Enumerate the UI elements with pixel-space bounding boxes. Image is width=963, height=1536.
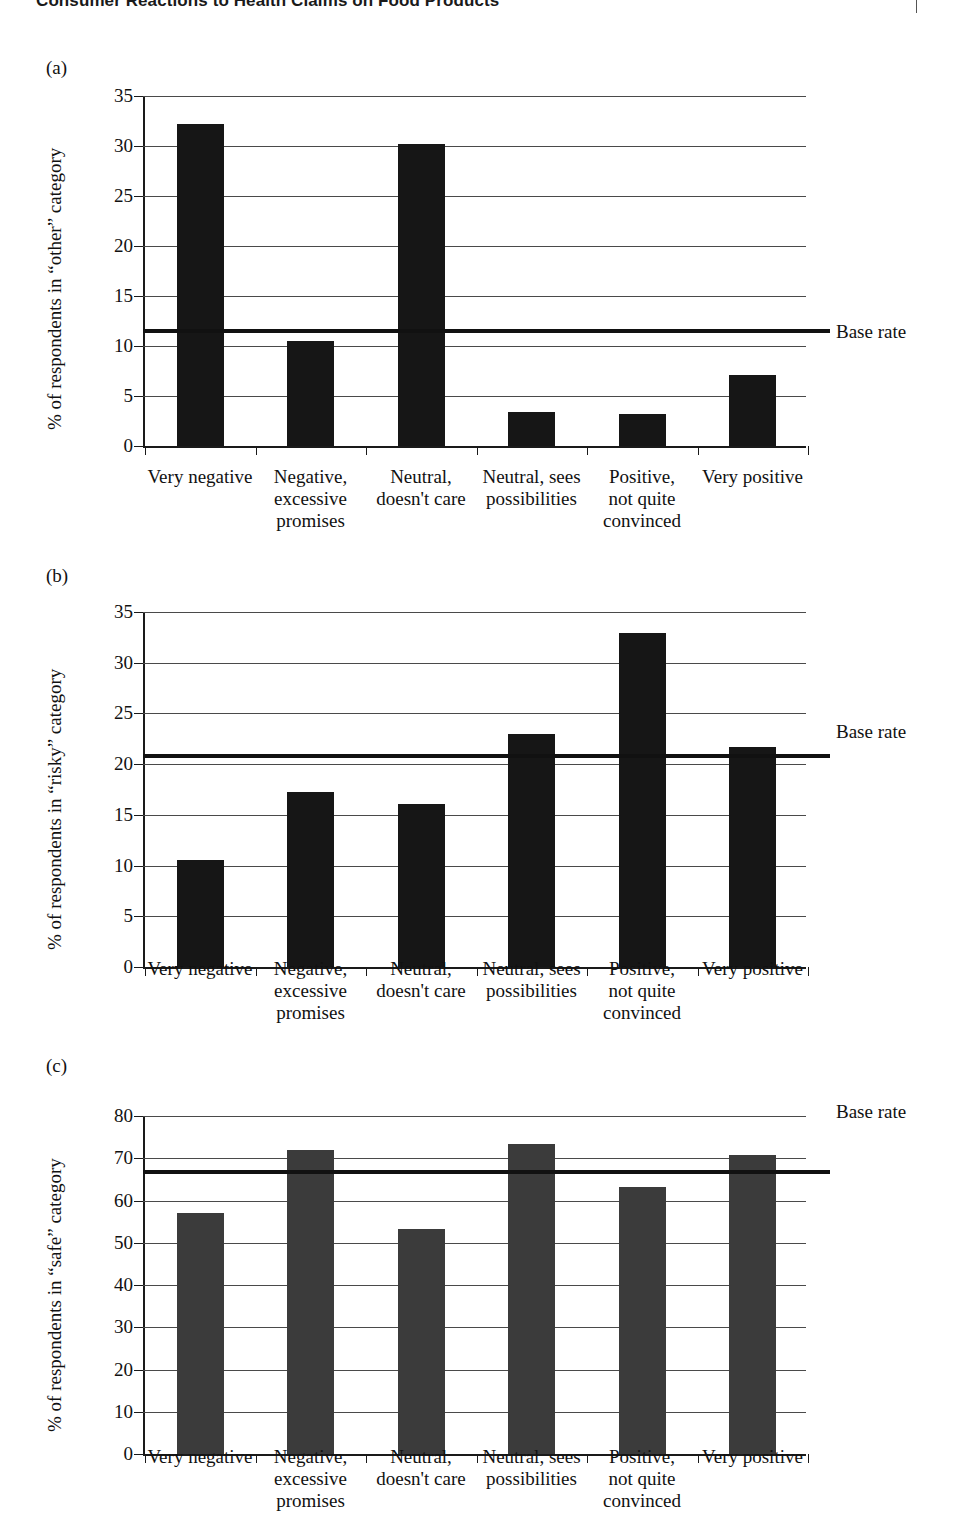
y-tick-mark-2-25 bbox=[134, 713, 143, 714]
y-tick-mark-2-5 bbox=[134, 916, 143, 917]
y-axis-label-2: % of respondents in “risky” category bbox=[44, 669, 66, 950]
x-axis-line-1 bbox=[143, 446, 806, 448]
y-tick-mark-1-25 bbox=[134, 196, 143, 197]
bar-1-5 bbox=[619, 414, 666, 446]
x-tick-mark-1-6 bbox=[808, 446, 809, 455]
y-tick-mark-1-15 bbox=[134, 296, 143, 297]
y-tick-label-3-0: 0 bbox=[85, 1444, 133, 1463]
bar-1-6 bbox=[729, 375, 776, 446]
y-tick-label-1-25: 25 bbox=[85, 186, 133, 205]
gridline-1-20 bbox=[143, 246, 806, 247]
gridline-1-5 bbox=[143, 396, 806, 397]
y-tick-mark-3-20 bbox=[134, 1370, 143, 1371]
x-category-line: not quite bbox=[576, 980, 708, 1002]
y-tick-label-2-30: 30 bbox=[85, 653, 133, 672]
bar-3-6 bbox=[729, 1155, 776, 1454]
y-tick-mark-2-30 bbox=[134, 663, 143, 664]
x-category-line: promises bbox=[245, 1490, 377, 1512]
bar-2-5 bbox=[619, 633, 666, 967]
bar-3-1 bbox=[177, 1213, 224, 1454]
y-tick-mark-3-80 bbox=[134, 1116, 143, 1117]
x-category-line: not quite bbox=[576, 1468, 708, 1490]
gridline-3-50 bbox=[143, 1243, 806, 1244]
gridline-3-60 bbox=[143, 1201, 806, 1202]
bar-2-2 bbox=[287, 792, 334, 967]
y-tick-label-3-30: 30 bbox=[85, 1317, 133, 1336]
plot-area-1 bbox=[143, 96, 806, 446]
header-rule bbox=[916, 0, 917, 13]
y-tick-label-3-70: 70 bbox=[85, 1148, 133, 1167]
y-tick-mark-3-50 bbox=[134, 1243, 143, 1244]
bar-3-4 bbox=[508, 1144, 555, 1454]
bar-3-2 bbox=[287, 1150, 334, 1454]
x-tick-mark-1-3 bbox=[477, 446, 478, 455]
x-category-line: Very positive bbox=[687, 958, 819, 980]
bar-1-4 bbox=[508, 412, 555, 446]
y-tick-mark-3-10 bbox=[134, 1412, 143, 1413]
y-tick-mark-2-20 bbox=[134, 764, 143, 765]
y-tick-label-2-20: 20 bbox=[85, 754, 133, 773]
y-tick-label-3-10: 10 bbox=[85, 1402, 133, 1421]
x-category-label-2-6: Very positive bbox=[687, 958, 819, 980]
bar-3-3 bbox=[398, 1229, 445, 1454]
y-tick-mark-3-60 bbox=[134, 1201, 143, 1202]
gridline-2-20 bbox=[143, 764, 806, 765]
y-tick-label-1-35: 35 bbox=[85, 86, 133, 105]
page-running-header: Consumer Reactions to Health Claims on F… bbox=[0, 0, 963, 14]
y-tick-label-1-10: 10 bbox=[85, 336, 133, 355]
x-tick-mark-1-1 bbox=[256, 446, 257, 455]
gridline-1-25 bbox=[143, 196, 806, 197]
x-category-line: Very positive bbox=[687, 1446, 819, 1468]
y-tick-label-2-15: 15 bbox=[85, 805, 133, 824]
bar-1-1 bbox=[177, 124, 224, 446]
gridline-3-80 bbox=[143, 1116, 806, 1117]
y-tick-label-1-5: 5 bbox=[85, 386, 133, 405]
panel-tag-3: (c) bbox=[46, 1056, 67, 1075]
x-tick-mark-1-2 bbox=[366, 446, 367, 455]
x-category-line: promises bbox=[245, 510, 377, 532]
gridline-2-15 bbox=[143, 815, 806, 816]
y-tick-mark-1-20 bbox=[134, 246, 143, 247]
y-tick-label-2-35: 35 bbox=[85, 602, 133, 621]
x-category-line: convinced bbox=[576, 1490, 708, 1512]
y-tick-mark-2-10 bbox=[134, 866, 143, 867]
x-category-label-1-6: Very positive bbox=[687, 466, 819, 488]
y-tick-mark-2-15 bbox=[134, 815, 143, 816]
page-title: Consumer Reactions to Health Claims on F… bbox=[36, 0, 499, 11]
gridline-3-70 bbox=[143, 1158, 806, 1159]
y-axis-label-3: % of respondents in “safe” category bbox=[44, 1158, 66, 1432]
panel-tag-1: (a) bbox=[46, 58, 67, 77]
base-rate-legend-label-2: Base rate bbox=[836, 722, 906, 741]
x-category-line: not quite bbox=[576, 488, 708, 510]
base-rate-legend-label-3: Base rate bbox=[836, 1102, 906, 1121]
x-category-line: convinced bbox=[576, 510, 708, 532]
y-axis-label-1: % of respondents in “other” category bbox=[44, 148, 66, 430]
gridline-3-20 bbox=[143, 1370, 806, 1371]
y-tick-label-2-5: 5 bbox=[85, 906, 133, 925]
y-tick-label-1-20: 20 bbox=[85, 236, 133, 255]
y-tick-label-1-30: 30 bbox=[85, 136, 133, 155]
gridline-2-25 bbox=[143, 713, 806, 714]
bar-1-2 bbox=[287, 341, 334, 446]
y-tick-mark-3-40 bbox=[134, 1285, 143, 1286]
panel-tag-2: (b) bbox=[46, 566, 68, 585]
base-rate-line-3 bbox=[143, 1170, 830, 1174]
y-tick-mark-1-35 bbox=[134, 96, 143, 97]
y-tick-mark-1-10 bbox=[134, 346, 143, 347]
bar-2-3 bbox=[398, 804, 445, 967]
x-category-line: promises bbox=[245, 1002, 377, 1024]
y-tick-mark-1-0 bbox=[134, 446, 143, 447]
y-tick-mark-2-35 bbox=[134, 612, 143, 613]
y-tick-label-3-60: 60 bbox=[85, 1191, 133, 1210]
gridline-3-30 bbox=[143, 1327, 806, 1328]
plot-area-2 bbox=[143, 612, 806, 967]
y-axis-line-2 bbox=[143, 612, 145, 967]
gridline-2-5 bbox=[143, 916, 806, 917]
y-tick-mark-1-5 bbox=[134, 396, 143, 397]
y-tick-label-3-50: 50 bbox=[85, 1233, 133, 1252]
y-tick-label-3-40: 40 bbox=[85, 1275, 133, 1294]
y-tick-label-3-80: 80 bbox=[85, 1106, 133, 1125]
y-tick-label-1-15: 15 bbox=[85, 286, 133, 305]
plot-area-3 bbox=[143, 1116, 806, 1454]
y-tick-label-2-25: 25 bbox=[85, 703, 133, 722]
